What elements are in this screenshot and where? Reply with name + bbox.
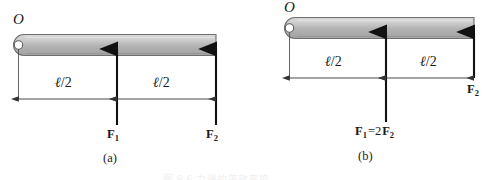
force-subscript-f1-b: 1: [363, 130, 367, 140]
panel-caption-b: (b): [358, 150, 373, 163]
force-subscript-f2-b: 2: [475, 88, 479, 98]
ell-suffix-right-b: /2: [426, 54, 437, 69]
force-symbol-f2-a: F: [206, 127, 214, 141]
force-subscript-f1-a: 1: [115, 133, 119, 143]
ell-suffix-left-b: /2: [331, 54, 342, 69]
ell-suffix-right-a: /2: [159, 75, 170, 90]
force-label-f1-a: F1: [107, 128, 119, 141]
force-symbol-f1-a: F: [107, 127, 115, 141]
force-label-f2-b: F2: [467, 83, 479, 96]
force-symbol-f2-b: F: [467, 82, 475, 96]
pivot-hole-b: [285, 24, 293, 32]
dimension-label-right-b: ℓ/2: [420, 55, 437, 69]
figure-bottom-caption: 图 9-6 力偶的等效变换: [163, 171, 270, 180]
panel-caption-a: (a): [103, 152, 117, 165]
force-subscript-f2-ref-b: 2: [390, 130, 394, 140]
pivot-label-o-a: O: [13, 12, 24, 27]
force-relation-f1-b: =2: [367, 124, 382, 138]
rod-a: [14, 35, 216, 56]
panel-a: O ℓ/2 ℓ/2 F1 F2 (a): [0, 0, 245, 180]
force-symbol-f2-ref-b: F: [382, 124, 390, 138]
dimension-label-left-a: ℓ/2: [55, 76, 72, 90]
panel-a-graphics: [0, 0, 245, 180]
ell-suffix-left-a: /2: [61, 75, 72, 90]
force-symbol-f1-b: F: [355, 124, 363, 138]
force-label-f1-b: F1=2F2: [355, 125, 394, 138]
panel-b: O ℓ/2 ℓ/2 F1=2F2 F2 (b): [245, 0, 491, 180]
pivot-label-o-b: O: [284, 0, 295, 15]
dimension-label-right-a: ℓ/2: [153, 76, 170, 90]
dimension-label-left-b: ℓ/2: [325, 55, 342, 69]
force-label-f2-a: F2: [206, 128, 218, 141]
force-subscript-f2-a: 2: [214, 133, 218, 143]
pivot-hole-a: [14, 41, 22, 49]
rod-b: [285, 18, 475, 39]
physics-figure-lever-force-couple: O ℓ/2 ℓ/2 F1 F2 (a): [0, 0, 491, 180]
